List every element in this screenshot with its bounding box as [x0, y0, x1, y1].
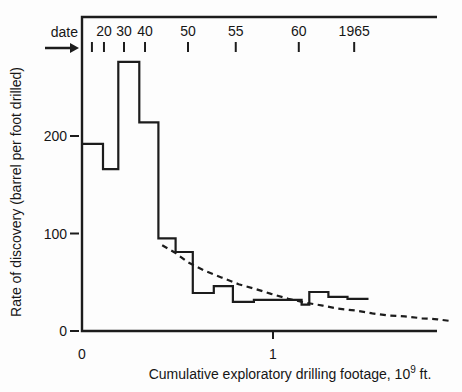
- date-arrow-icon: [45, 43, 79, 53]
- date-tick-label: 1965: [324, 23, 384, 39]
- x-tick-label: 0: [62, 346, 102, 362]
- x-axis-title-text: Cumulative exploratory drilling footage,…: [149, 366, 410, 382]
- date-tick-label: 60: [269, 23, 329, 39]
- y-axis-title: Rate of discovery (barrel per foot drill…: [8, 42, 24, 342]
- x-tick-label: 1: [253, 346, 293, 362]
- y-tick-label: 100: [30, 226, 67, 242]
- x-axis-title-unit: ft.: [416, 366, 432, 382]
- decline-curve-dashed-line: [162, 245, 452, 321]
- discovery-rate-chart: date Rate of discovery (barrel per foot …: [0, 0, 462, 392]
- x-axis-title: Cumulative exploratory drilling footage,…: [118, 365, 462, 382]
- axes-frame: [82, 17, 437, 331]
- y-tick-label: 0: [30, 323, 67, 339]
- y-tick-label: 200: [30, 128, 67, 144]
- date-axis-label: date: [36, 24, 78, 40]
- date-tick-label: 55: [206, 23, 266, 39]
- discovery-rate-step-line: [82, 62, 369, 305]
- plot-canvas: [0, 0, 462, 392]
- date-arrow-head: [70, 43, 79, 53]
